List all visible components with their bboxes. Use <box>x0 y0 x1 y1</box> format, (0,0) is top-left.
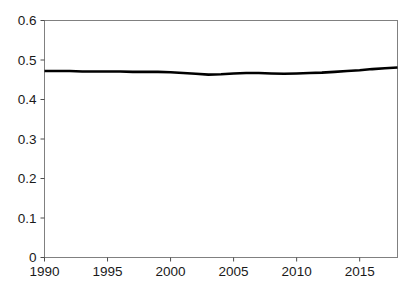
y-tick-label: 0.3 <box>18 132 37 147</box>
y-tick-label: 0.4 <box>18 92 37 107</box>
x-tick-label: 1990 <box>29 264 59 279</box>
y-tick-label: 0.1 <box>18 211 37 226</box>
x-tick-label: 2010 <box>282 264 312 279</box>
line-chart: 00.10.20.30.40.50.6 19901995200020052010… <box>0 0 414 294</box>
x-tick-label: 2000 <box>156 264 186 279</box>
chart-canvas: 00.10.20.30.40.50.6 19901995200020052010… <box>0 0 414 294</box>
x-tick-label: 1995 <box>93 264 123 279</box>
x-tick-label: 2005 <box>219 264 249 279</box>
y-tick-label: 0.6 <box>18 13 37 28</box>
x-tick-label: 2015 <box>345 264 375 279</box>
y-tick-label: 0.2 <box>18 171 37 186</box>
plot-area-frame <box>45 21 398 258</box>
y-tick-label: 0.5 <box>18 53 37 68</box>
